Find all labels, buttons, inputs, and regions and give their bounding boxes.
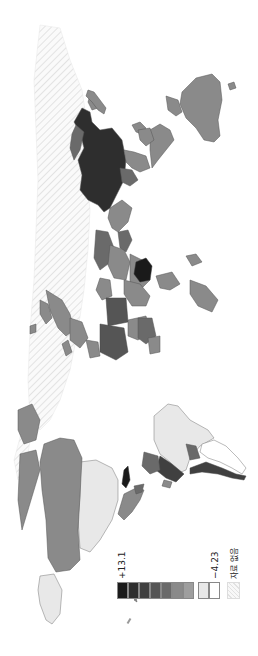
region-indonesia — [150, 124, 174, 168]
legend-min-label: −4.23 — [210, 551, 220, 579]
region-usa — [78, 460, 118, 552]
region-indochina — [120, 168, 138, 186]
legend-swatch-9 — [209, 582, 220, 599]
region-sahel — [106, 298, 128, 326]
legend-swatch-8 — [198, 582, 209, 599]
region-turkey — [96, 278, 112, 300]
region-russia — [28, 25, 90, 430]
region-iceland — [30, 324, 36, 334]
region-australia — [180, 74, 222, 142]
legend-swatch-4 — [150, 582, 161, 599]
legend-swatch-2 — [128, 582, 139, 599]
legend-swatch-6 — [172, 582, 183, 599]
region-arctic-archipelago — [18, 450, 40, 530]
region-new-zealand — [228, 82, 236, 90]
region-colombia-venezuela — [142, 452, 160, 474]
legend-max-label: +13.1 — [117, 551, 127, 579]
legend-no-data-label: 자료 없음 — [228, 548, 239, 579]
region-east-africa — [156, 272, 180, 290]
region-alaska — [38, 574, 62, 624]
legend-swatch-no-data — [227, 582, 240, 599]
legend-swatch-3 — [139, 582, 150, 599]
legend-swatch-7 — [183, 582, 194, 599]
region-iberia — [86, 340, 100, 358]
region-southeast-asia — [124, 150, 150, 172]
region-west-coast — [148, 336, 160, 354]
region-cuba — [122, 466, 130, 488]
region-southern-africa — [190, 280, 218, 312]
legend-swatch-1 — [117, 582, 128, 599]
region-ecuador — [162, 480, 172, 488]
region-north-africa — [100, 324, 128, 360]
region-madagascar — [186, 254, 202, 266]
legend-swatch-5 — [161, 582, 172, 599]
region-canada — [40, 438, 82, 572]
region-new-guinea — [166, 96, 182, 116]
